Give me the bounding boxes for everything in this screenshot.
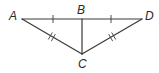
- point-label-c: C: [78, 57, 87, 71]
- point-label-a: A: [8, 9, 17, 23]
- geometry-diagram: A B D C: [0, 0, 159, 73]
- point-label-d: D: [145, 9, 154, 23]
- point-label-b: B: [77, 3, 85, 17]
- segment-ac: [22, 19, 82, 54]
- segment-dc: [82, 19, 142, 54]
- diagram-canvas: A B D C: [0, 0, 159, 73]
